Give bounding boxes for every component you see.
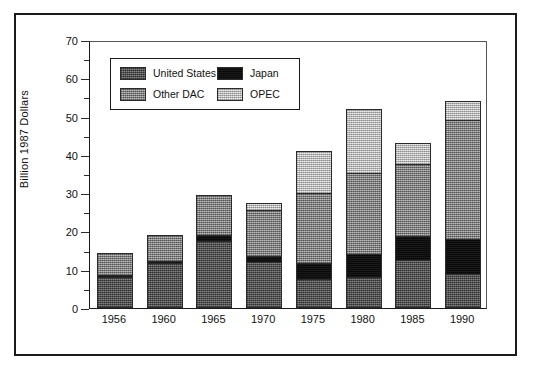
- x-tick-label: 1980: [350, 313, 374, 325]
- bar-segment[interactable]: [296, 151, 332, 193]
- bar-segment[interactable]: [395, 164, 431, 236]
- legend-item[interactable]: United States: [120, 67, 216, 80]
- bar-segment[interactable]: [445, 239, 481, 273]
- bar-segment[interactable]: [296, 193, 332, 263]
- bar-segment[interactable]: [445, 120, 481, 239]
- bar-segment[interactable]: [246, 256, 282, 262]
- bar-segment[interactable]: [346, 254, 382, 276]
- x-tick-label: 1956: [102, 313, 126, 325]
- y-tick-label: 60: [66, 74, 78, 85]
- y-tick-major: [81, 79, 89, 80]
- bar-segment[interactable]: [296, 279, 332, 308]
- x-tick-label: 1975: [301, 313, 325, 325]
- y-tick-major: [81, 232, 89, 233]
- chart-figure: Billion 1987 Dollars 010203040506070 195…: [0, 0, 543, 369]
- bar-segment[interactable]: [346, 109, 382, 173]
- bar-group[interactable]: [395, 40, 431, 308]
- bar-segment[interactable]: [246, 262, 282, 308]
- bar-segment[interactable]: [296, 263, 332, 279]
- bar-segment[interactable]: [346, 173, 382, 255]
- x-tick-label: 1990: [450, 313, 474, 325]
- legend-swatch-icon: [120, 88, 146, 101]
- legend-item[interactable]: Japan: [217, 67, 279, 80]
- y-tick-label: 20: [66, 227, 78, 238]
- bar-segment[interactable]: [97, 253, 133, 276]
- bar-segment[interactable]: [395, 260, 431, 308]
- bar-segment[interactable]: [246, 203, 282, 211]
- x-axis: 19561960196519701975198019851990: [89, 313, 487, 335]
- bar-segment[interactable]: [395, 236, 431, 260]
- y-tick-label: 50: [66, 112, 78, 123]
- bar-segment[interactable]: [346, 277, 382, 308]
- bar-segment[interactable]: [196, 195, 232, 235]
- chart-legend: United StatesJapanOther DACOPEC: [110, 58, 300, 110]
- bar-segment[interactable]: [97, 277, 133, 308]
- x-tick-label: 1965: [201, 313, 225, 325]
- bar-segment[interactable]: [97, 275, 133, 276]
- legend-label: OPEC: [250, 89, 280, 100]
- bar-segment[interactable]: [147, 261, 183, 263]
- y-tick-major: [81, 271, 89, 272]
- y-tick-major: [81, 118, 89, 119]
- legend-swatch-icon: [217, 88, 243, 101]
- bar-segment[interactable]: [147, 235, 183, 260]
- legend-item[interactable]: OPEC: [217, 88, 280, 101]
- bar-group[interactable]: [445, 40, 481, 308]
- bar-segment[interactable]: [147, 263, 183, 308]
- bar-segment[interactable]: [196, 241, 232, 308]
- bar-segment[interactable]: [395, 143, 431, 164]
- bar-segment[interactable]: [445, 274, 481, 308]
- y-axis: 010203040506070: [0, 41, 89, 310]
- bar-group[interactable]: [296, 40, 332, 308]
- x-tick-label: 1970: [251, 313, 275, 325]
- y-tick-label: 40: [66, 150, 78, 161]
- bar-group[interactable]: [346, 40, 382, 308]
- y-tick-major: [81, 309, 89, 310]
- legend-label: United States: [153, 68, 216, 79]
- legend-swatch-icon: [217, 67, 243, 80]
- y-tick-major: [81, 156, 89, 157]
- bar-segment[interactable]: [445, 101, 481, 120]
- legend-item[interactable]: Other DAC: [120, 88, 204, 101]
- y-tick-label: 70: [66, 36, 78, 47]
- y-tick-label: 0: [72, 304, 78, 315]
- bar-segment[interactable]: [196, 235, 232, 241]
- legend-label: Other DAC: [153, 89, 204, 100]
- bar-segment[interactable]: [246, 210, 282, 256]
- y-tick-label: 30: [66, 189, 78, 200]
- legend-swatch-icon: [120, 67, 146, 80]
- legend-label: Japan: [250, 68, 279, 79]
- y-tick-label: 10: [66, 265, 78, 276]
- y-tick-major: [81, 41, 89, 42]
- y-tick-major: [81, 194, 89, 195]
- x-tick-label: 1960: [151, 313, 175, 325]
- x-tick-label: 1985: [400, 313, 424, 325]
